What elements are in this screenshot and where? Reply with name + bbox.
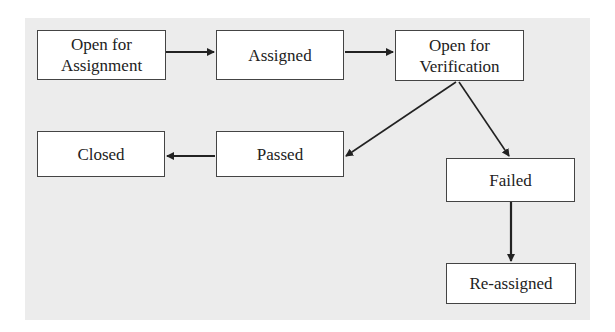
edge-open-for-verification-to-passed xyxy=(346,82,456,156)
node-reassigned: Re-assigned xyxy=(446,263,576,304)
node-open-for-assignment: Open for Assignment xyxy=(37,30,166,80)
node-closed: Closed xyxy=(37,131,165,177)
node-assigned: Assigned xyxy=(216,30,344,80)
node-label: Re-assigned xyxy=(469,273,552,294)
node-label: Assigned xyxy=(248,45,311,66)
edge-open-for-verification-to-failed xyxy=(459,82,509,156)
node-failed: Failed xyxy=(446,158,575,202)
node-label-line1: Open for xyxy=(71,34,132,55)
node-label: Passed xyxy=(257,144,303,165)
node-label-line1: Open for xyxy=(429,35,490,56)
node-label-line2: Verification xyxy=(419,56,499,77)
node-label: Closed xyxy=(77,144,124,165)
node-passed: Passed xyxy=(216,131,344,177)
node-label-line2: Assignment xyxy=(61,55,142,76)
node-open-for-verification: Open for Verification xyxy=(395,30,524,81)
node-label: Failed xyxy=(489,170,532,191)
